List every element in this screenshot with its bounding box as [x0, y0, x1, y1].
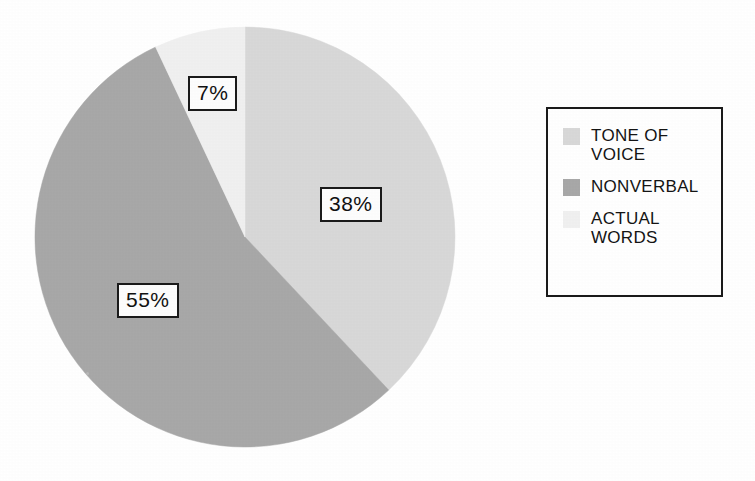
pie-chart-figure: 7% 38% 55% TONE OF VOICE NONVERBAL ACTUA…: [0, 0, 755, 481]
legend-item-tone-of-voice[interactable]: TONE OF VOICE: [563, 126, 711, 164]
legend-item-nonverbal[interactable]: NONVERBAL: [563, 177, 711, 196]
legend-item-actual-words[interactable]: ACTUAL WORDS: [563, 209, 711, 247]
legend-label-actual-words: ACTUAL WORDS: [591, 209, 660, 247]
legend-label-tone-of-voice: TONE OF VOICE: [591, 126, 668, 164]
pie-value-label-nonverbal: 55%: [117, 283, 179, 318]
pie-value-label-tone-of-voice: 38%: [320, 187, 382, 222]
chart-legend: TONE OF VOICE NONVERBAL ACTUAL WORDS: [546, 107, 723, 297]
pie-chart-svg: [33, 25, 457, 449]
legend-label-nonverbal: NONVERBAL: [591, 177, 699, 196]
pie-value-label-actual-words: 7%: [188, 76, 237, 111]
scan-artifact-speck: [86, 372, 89, 375]
legend-swatch-tone-of-voice: [563, 128, 580, 145]
legend-swatch-nonverbal: [563, 179, 580, 196]
pie-chart-plot-area: [33, 25, 457, 449]
legend-swatch-actual-words: [563, 211, 580, 228]
